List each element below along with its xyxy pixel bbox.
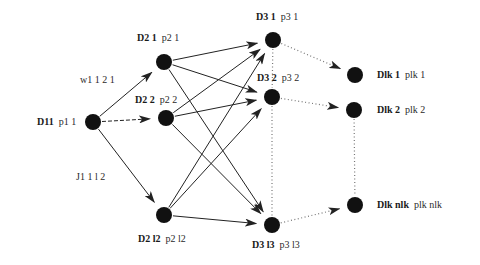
dotted-edge-Dlk2-Dlknlk [354,119,355,196]
dotted-edge-D32-Dlk2 [281,98,338,107]
edge-D2l2-D31 [169,54,265,208]
edge-D21-D31 [173,43,257,60]
node-label-D22: D2 2p2 2 [135,95,177,105]
edges-layer [98,43,354,223]
node-label-Dlk2: Dlk 2plk 2 [377,105,425,115]
node-name: D3 2 [257,72,277,83]
node-probability: p3 2 [282,72,300,83]
edge-D2l2-D32 [170,109,261,209]
edge-D2l2-D3l3 [173,216,256,224]
node-label-Dlk1: Dlk 1plk 1 [377,70,425,80]
node-probability: p3 1 [281,11,299,22]
node-D21 [156,54,172,70]
node-probability: plk 2 [405,104,425,115]
edge-D11-D2l2 [98,129,154,202]
node-D2l2 [156,207,172,223]
node-name: D3 1 [256,11,276,22]
node-name: Dlk 2 [377,104,400,115]
node-label-D3l3: D3 l3p3 l3 [252,240,300,250]
node-probability: p2 1 [162,32,180,43]
node-name: D2 2 [135,94,155,105]
dotted-edge-D31-Dlk1 [281,44,340,69]
node-label-D2l2: D2 l2p2 l2 [138,234,186,244]
node-name: Dlk nlk [377,199,409,210]
nodes-layer [85,32,363,233]
node-D32 [264,89,280,105]
multistage-graph [0,0,480,265]
node-label-Dlknlk: Dlk nlkplk nlk [377,200,442,210]
dotted-edge-D3l3-Dlknlk [281,209,340,223]
edge-D11-D22 [102,119,150,122]
node-probability: plk 1 [405,69,425,80]
node-probability: p2 l2 [166,233,186,244]
node-probability: plk nlk [414,199,442,210]
node-Dlk2 [346,102,362,118]
node-name: D2 l2 [138,233,161,244]
node-Dlknlk [347,197,363,213]
node-D22 [158,110,174,126]
node-D31 [265,32,281,48]
node-name: D3 l3 [252,239,275,250]
node-name: D11 [37,116,54,127]
node-label-D31: D3 1p3 1 [256,12,298,22]
node-probability: p1 1 [59,116,77,127]
node-Dlk1 [347,67,363,83]
edge-weight-label: J1 1 l 2 [76,172,105,182]
edge-D22-D3l3 [172,124,260,213]
node-label-D11: D11p1 1 [37,117,76,127]
edge-D21-D3l3 [169,70,263,212]
node-probability: p2 2 [160,94,178,105]
node-probability: p3 l3 [280,239,300,250]
node-D3l3 [264,217,280,233]
node-label-D32: D3 2p3 2 [257,73,299,83]
node-label-D21: D2 1p2 1 [137,33,179,43]
node-name: D2 1 [137,32,157,43]
node-name: Dlk 1 [377,69,400,80]
edge-weight-label: w1 1 2 1 [80,75,115,85]
node-D11 [85,114,101,130]
edge-D21-D32 [173,65,257,92]
